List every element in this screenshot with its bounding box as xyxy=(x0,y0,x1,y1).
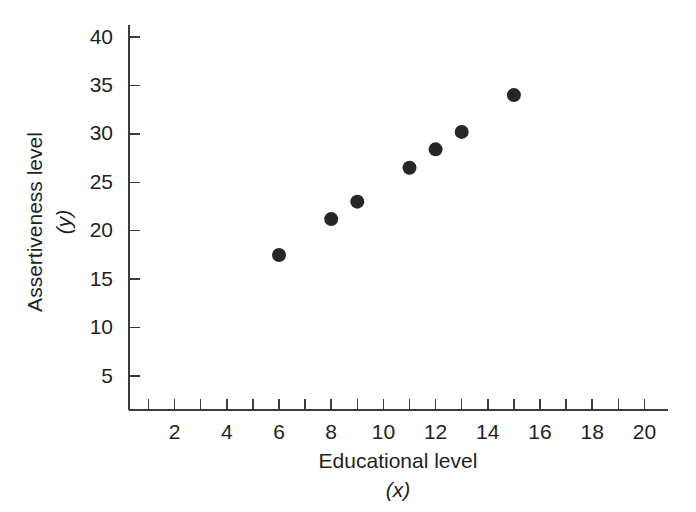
data-point xyxy=(403,161,417,175)
data-point xyxy=(324,212,338,226)
x-tick-label: 10 xyxy=(372,420,395,443)
x-axis-title: Educational level (x) xyxy=(319,449,478,501)
y-tick-label: 15 xyxy=(90,267,113,290)
x-axis-title-text: Educational level xyxy=(319,449,478,472)
data-point xyxy=(507,88,521,102)
x-tick-label: 8 xyxy=(325,420,337,443)
y-tick-label: 20 xyxy=(90,218,113,241)
y-axis-title-text: Assertiveness level xyxy=(23,132,46,312)
x-tick-label: 14 xyxy=(476,420,500,443)
x-tick-label: 6 xyxy=(273,420,285,443)
data-point xyxy=(429,142,443,156)
x-tick-label: 2 xyxy=(169,420,181,443)
x-tick-label: 20 xyxy=(633,420,656,443)
y-axis-title-variable: (y) xyxy=(52,210,75,235)
x-tick-label: 4 xyxy=(221,420,233,443)
y-tick-label: 30 xyxy=(90,121,113,144)
data-point xyxy=(350,195,364,209)
axes-group xyxy=(129,25,668,410)
y-tick-label: 40 xyxy=(90,25,113,48)
tick-marks-group xyxy=(129,37,644,410)
y-tick-label: 25 xyxy=(90,170,113,193)
y-tick-label: 35 xyxy=(90,73,113,96)
x-tick-label: 18 xyxy=(581,420,604,443)
x-tick-label: 12 xyxy=(424,420,447,443)
y-tick-label: 5 xyxy=(101,364,113,387)
y-axis-title: Assertiveness level (y) xyxy=(23,132,75,312)
x-axis-tick-labels: 2468101214161820 xyxy=(169,420,656,443)
y-tick-label: 10 xyxy=(90,315,113,338)
data-point xyxy=(272,248,286,262)
data-points-group xyxy=(272,88,521,262)
scatter-plot-figure: 510152025303540 2468101214161820 Educati… xyxy=(0,0,696,512)
x-tick-label: 16 xyxy=(528,420,551,443)
y-axis-tick-labels: 510152025303540 xyxy=(90,25,113,387)
x-axis-title-variable: (x) xyxy=(386,478,411,501)
data-point xyxy=(455,125,469,139)
plot-canvas: 510152025303540 2468101214161820 Educati… xyxy=(0,0,696,512)
